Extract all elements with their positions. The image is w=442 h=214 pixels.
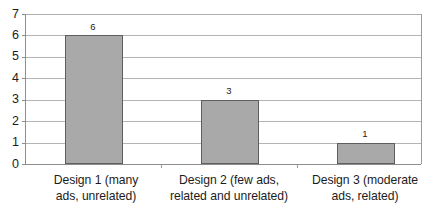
bar-design-2: [201, 100, 259, 164]
bar-value-design-3: 1: [336, 129, 394, 139]
y-tick-label-0: 0: [0, 158, 19, 171]
y-tick-mark-2: [22, 121, 26, 122]
y-tick-label-2: 2: [0, 115, 19, 128]
category-label-design-3-line-1: Design 3 (moderate: [298, 173, 432, 189]
x-tick-separator-2: [297, 164, 298, 168]
y-tick-label-4: 4: [0, 72, 19, 85]
x-axis-line: [26, 164, 421, 165]
y-tick-mark-3: [22, 100, 26, 101]
x-tick-separator-1: [161, 164, 162, 168]
y-tick-mark-1: [22, 143, 26, 144]
category-label-design-3-line-2: ads, related): [298, 189, 432, 205]
y-axis-tick-labels: 7 6 5 4 3 2 1 0: [0, 0, 22, 214]
category-label-design-2-line-2: related and unrelated): [162, 189, 296, 205]
bar-design-1: [65, 35, 123, 164]
y-tick-mark-4: [22, 78, 26, 79]
y-tick-label-1: 1: [0, 136, 19, 149]
gridline-7: [26, 14, 421, 15]
y-tick-label-7: 7: [0, 8, 19, 21]
category-label-design-2: Design 2 (few ads, related and unrelated…: [162, 173, 296, 204]
bar-design-3: [337, 143, 395, 164]
category-label-design-2-line-1: Design 2 (few ads,: [162, 173, 296, 189]
bar-chart: 7 6 5 4 3 2 1 0 6 3 1: [0, 0, 442, 214]
y-tick-mark-6: [22, 35, 26, 36]
y-tick-mark-0: [22, 164, 26, 165]
y-tick-label-5: 5: [0, 50, 19, 63]
y-tick-mark-5: [22, 57, 26, 58]
category-label-design-1: Design 1 (many ads, unrelated): [30, 173, 162, 204]
category-label-design-1-line-2: ads, unrelated): [30, 189, 162, 205]
bar-value-design-1: 6: [64, 22, 122, 32]
bar-value-design-2: 3: [200, 86, 258, 96]
y-tick-mark-7: [22, 14, 26, 15]
category-label-design-1-line-1: Design 1 (many: [30, 173, 162, 189]
y-tick-label-6: 6: [0, 29, 19, 42]
y-tick-label-3: 3: [0, 93, 19, 106]
category-label-design-3: Design 3 (moderate ads, related): [298, 173, 432, 204]
